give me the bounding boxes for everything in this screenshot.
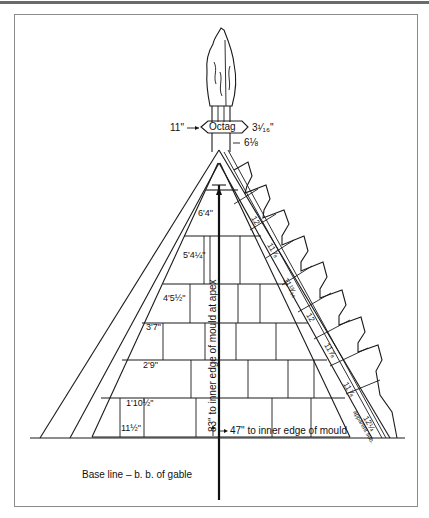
course-label: 1'10½" [126, 398, 153, 408]
course-label: 2'9" [143, 360, 158, 370]
coping-label: 11⅞ [341, 381, 356, 399]
finial-lower-dim: 6⅛ [244, 137, 259, 148]
horizontal-dimension-label: 47" to inner edge of mould [230, 425, 347, 436]
course-label: 3'7" [146, 322, 161, 332]
coping-label: 11⅞ [322, 342, 337, 360]
arrowhead-icon [195, 126, 199, 130]
vertical-dimension-label: 83" to inner edge of mould at apex [207, 279, 218, 432]
arrowhead-icon [216, 187, 222, 195]
course-label: 6'4" [198, 208, 213, 218]
course-label: 11½" [121, 423, 141, 433]
course-label: 5'4¼" [183, 250, 205, 260]
finial-icon [201, 28, 248, 152]
finial-right-dim: 3¹⁄₁₆" [252, 122, 274, 133]
arrowhead-icon [224, 429, 228, 433]
finial-left-dim: 11" [170, 122, 184, 133]
coping-steps [234, 162, 397, 438]
octagon-label: Octag [209, 121, 236, 132]
baseline-label: Base line – b. b. of gable [82, 469, 193, 480]
coping-label: 11¹³⁄₁₆ [281, 277, 299, 300]
course-label: 4'5½" [163, 293, 185, 303]
coping-label: 12 [304, 312, 317, 325]
gable-diagram: Octag 11" 3¹⁄₁₆" 6⅛ [0, 0, 429, 518]
